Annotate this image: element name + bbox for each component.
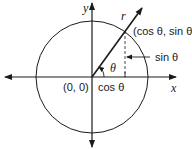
- sine-label: sin θ: [155, 51, 178, 63]
- x-axis-label: x: [170, 81, 177, 95]
- radius-label: r: [121, 9, 126, 23]
- point-label: (cos θ, sin θ): [133, 25, 192, 37]
- origin-label: (0, 0): [63, 81, 89, 93]
- angle-arc: [99, 67, 104, 77]
- angle-label: θ: [110, 61, 116, 75]
- radius-line: [92, 8, 142, 77]
- cosine-label: cos θ: [98, 81, 124, 93]
- unit-circle-diagram: y x r (cos θ, sin θ) sin θ θ (0, 0) cos …: [0, 0, 192, 149]
- y-axis-label: y: [82, 1, 89, 15]
